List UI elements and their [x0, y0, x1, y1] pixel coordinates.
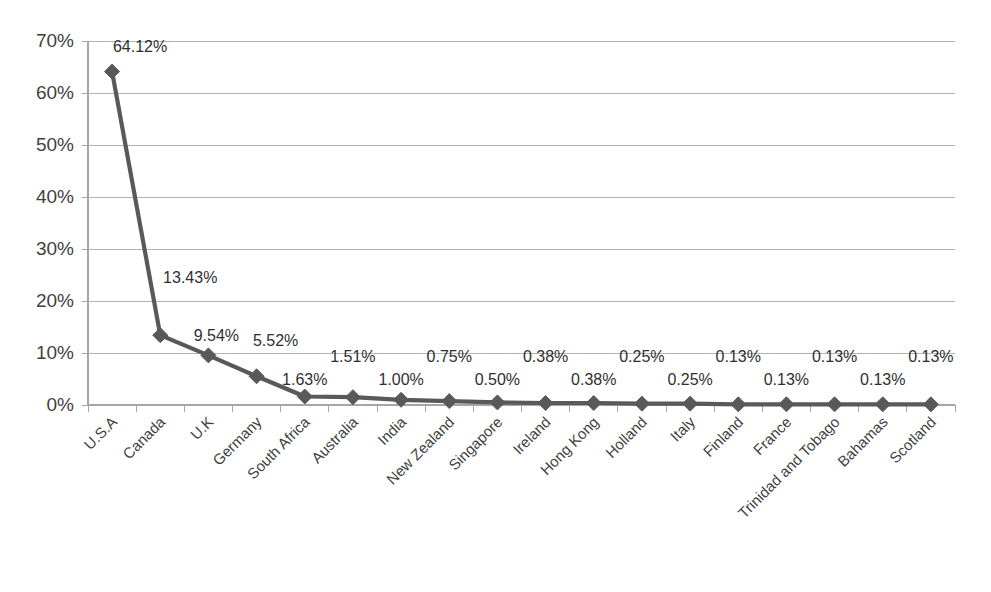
data-series-line [112, 72, 931, 405]
gridlines [88, 41, 955, 353]
data-point-marker [923, 397, 938, 412]
x-axis-category-label: Bahamas [834, 413, 891, 470]
data-value-label: 0.38% [523, 348, 568, 365]
x-axis-category-label: Ireland [509, 413, 553, 457]
y-axis-tick-label: 0% [47, 394, 75, 415]
data-point-marker [538, 396, 553, 411]
x-axis-category-label: Finland [700, 413, 747, 460]
x-axis-category-label: Canada [119, 413, 169, 463]
chart-canvas: 0%10%20%30%40%50%60%70% 64.12%13.43%9.54… [0, 0, 991, 592]
data-value-label: 13.43% [163, 269, 217, 286]
data-value-label: 0.25% [619, 348, 664, 365]
data-value-label: 0.13% [764, 371, 809, 388]
y-axis-tick-label: 20% [36, 290, 74, 311]
data-point-marker [153, 328, 168, 343]
y-axis-tickmarks [82, 41, 88, 405]
data-point-marker [490, 395, 505, 410]
x-axis-category-label: France [750, 413, 795, 458]
data-point-marker [297, 389, 312, 404]
y-axis-tick-label: 60% [36, 82, 74, 103]
data-value-label: 0.38% [571, 371, 616, 388]
y-axis-labels: 0%10%20%30%40%50%60%70% [36, 30, 74, 415]
x-axis-category-label: U.S.A [80, 413, 120, 453]
data-point-marker [779, 397, 794, 412]
y-axis-tick-label: 70% [36, 30, 74, 51]
data-value-label: 1.00% [378, 371, 423, 388]
x-axis-category-labels: U.S.ACanadaU.KGermanySouth AfricaAustral… [80, 413, 939, 522]
data-value-label: 0.13% [860, 371, 905, 388]
y-axis-tick-label: 10% [36, 342, 74, 363]
data-value-labels: 64.12%13.43%9.54%5.52%1.63%1.51%1.00%0.7… [113, 38, 954, 388]
y-axis-tick-label: 40% [36, 186, 74, 207]
y-axis-tick-label: 50% [36, 134, 74, 155]
data-point-marker [634, 396, 649, 411]
data-point-marker [827, 397, 842, 412]
y-axis-tick-label: 30% [36, 238, 74, 259]
line-chart: 0%10%20%30%40%50%60%70% 64.12%13.43%9.54… [0, 0, 991, 592]
x-axis-category-label: India [374, 413, 409, 448]
data-value-label: 1.63% [282, 371, 327, 388]
data-value-label: 0.50% [475, 371, 520, 388]
data-value-label: 0.75% [427, 348, 472, 365]
x-axis-category-label: Holland [602, 413, 650, 461]
data-point-marker [249, 369, 264, 384]
x-axis-category-label: Scotland [886, 413, 939, 466]
data-point-marker [586, 396, 601, 411]
data-value-label: 0.13% [812, 348, 857, 365]
data-point-marker [683, 396, 698, 411]
data-value-label: 0.13% [716, 348, 761, 365]
data-point-marker [201, 348, 216, 363]
data-point-marker [345, 390, 360, 405]
data-point-marker [731, 397, 746, 412]
data-value-label: 9.54% [194, 327, 239, 344]
data-value-label: 5.52% [253, 332, 298, 349]
data-value-label: 0.13% [908, 348, 953, 365]
x-axis-category-label: Australia [308, 413, 362, 467]
data-value-label: 1.51% [330, 348, 375, 365]
x-axis-category-label: Italy [667, 413, 699, 445]
data-value-label: 64.12% [113, 38, 167, 55]
data-point-marker [442, 394, 457, 409]
x-axis-category-label: U.K [187, 413, 217, 443]
data-point-marker [875, 397, 890, 412]
data-point-marker [105, 64, 120, 79]
data-value-label: 0.25% [667, 371, 712, 388]
